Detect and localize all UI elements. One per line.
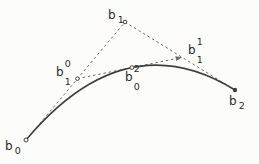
label-b1: b1 bbox=[108, 10, 124, 21]
label-b02-base: b bbox=[125, 72, 133, 83]
label-b11-base: b bbox=[188, 45, 196, 56]
label-b10-base: b bbox=[56, 67, 64, 78]
label-b2: b2 bbox=[229, 96, 245, 107]
label-b10-sup: 0 bbox=[65, 59, 71, 68]
label-b11-sub: 1 bbox=[197, 55, 203, 64]
label-b1-base: b bbox=[108, 10, 116, 21]
label-b10-scripts: 0 1 bbox=[65, 59, 71, 86]
point-marker-b2 bbox=[233, 88, 237, 92]
label-b11-scripts: 1 1 bbox=[197, 37, 203, 64]
label-b02-scripts: 2 0 bbox=[134, 64, 140, 91]
label-b2-base: b bbox=[229, 96, 237, 107]
point-marker-b10 bbox=[76, 77, 80, 81]
label-b2-sub: 2 bbox=[239, 100, 245, 111]
label-b11-sup: 1 bbox=[197, 37, 203, 46]
label-b02-sup: 2 bbox=[134, 64, 140, 73]
label-b02: b 2 0 bbox=[125, 64, 140, 91]
label-b10-sub: 1 bbox=[65, 77, 71, 86]
label-b10: b 0 1 bbox=[56, 59, 71, 86]
point-marker-b1 bbox=[123, 20, 127, 24]
label-b0-sub: 0 bbox=[15, 145, 21, 156]
control-leg-b1-b2 bbox=[125, 22, 235, 90]
figure-bezier-construction: b0 b1 b2 b 0 1 b 1 1 b 2 0 bbox=[0, 0, 259, 164]
point-marker-b0 bbox=[24, 138, 28, 142]
label-b0-base: b bbox=[5, 141, 13, 152]
label-b0: b0 bbox=[5, 141, 21, 152]
label-b1-sub: 1 bbox=[118, 14, 124, 25]
label-b11: b 1 1 bbox=[188, 37, 203, 64]
label-b02-sub: 0 bbox=[134, 82, 140, 91]
